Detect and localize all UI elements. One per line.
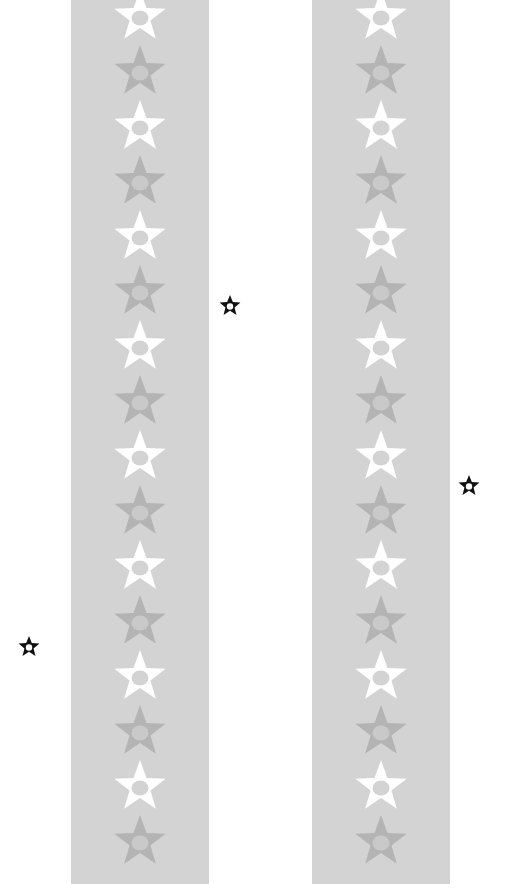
- star-outline-icon: [456, 472, 482, 498]
- star-gray-icon: [112, 263, 168, 319]
- canvas: [0, 0, 515, 889]
- star-gray-icon: [112, 703, 168, 759]
- star-white-icon: [112, 318, 168, 374]
- star-white-icon: [353, 648, 409, 704]
- decorative-banner-right: [312, 0, 450, 884]
- star-white-icon: [112, 208, 168, 264]
- star-white-icon: [353, 428, 409, 484]
- star-white-icon: [353, 318, 409, 374]
- star-gray-icon: [112, 593, 168, 649]
- marker-1[interactable]: [217, 292, 243, 318]
- star-white-icon: [353, 758, 409, 814]
- star-white-icon: [112, 428, 168, 484]
- star-gray-icon: [353, 593, 409, 649]
- star-gray-icon: [353, 263, 409, 319]
- star-gray-icon: [353, 43, 409, 99]
- star-gray-icon: [112, 43, 168, 99]
- star-gray-icon: [112, 373, 168, 429]
- star-gray-icon: [112, 153, 168, 209]
- star-outline-icon: [217, 292, 243, 318]
- star-gray-icon: [112, 483, 168, 539]
- decorative-banner-left: [71, 0, 209, 884]
- star-white-icon: [112, 538, 168, 594]
- star-white-icon: [112, 758, 168, 814]
- star-gray-icon: [353, 483, 409, 539]
- marker-3[interactable]: [16, 633, 42, 659]
- star-outline-icon: [16, 633, 42, 659]
- star-white-icon: [353, 208, 409, 264]
- star-white-icon: [112, 648, 168, 704]
- star-gray-icon: [353, 703, 409, 759]
- star-gray-icon: [353, 373, 409, 429]
- star-white-icon: [353, 0, 409, 44]
- star-gray-icon: [353, 813, 409, 869]
- star-gray-icon: [353, 153, 409, 209]
- star-white-icon: [353, 538, 409, 594]
- star-white-icon: [112, 0, 168, 44]
- star-gray-icon: [112, 813, 168, 869]
- marker-2[interactable]: [456, 472, 482, 498]
- star-white-icon: [112, 98, 168, 154]
- star-white-icon: [353, 98, 409, 154]
